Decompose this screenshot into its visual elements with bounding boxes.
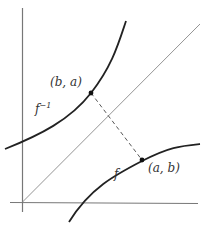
reflection-connector — [91, 93, 142, 160]
point-b-a — [89, 91, 94, 96]
identity-line — [23, 24, 201, 202]
function-curve — [69, 144, 200, 222]
point-a-b — [140, 158, 145, 163]
horizontal-axis — [10, 203, 198, 204]
label-inverse-function: f−1 — [34, 101, 51, 116]
label-point-a-b: (a, b) — [148, 161, 180, 175]
inverse-superscript: −1 — [39, 101, 51, 110]
label-point-b-a: (b, a) — [50, 75, 82, 89]
inverse-function-diagram: (b, a) (a, b) f−1 f — [0, 0, 202, 230]
